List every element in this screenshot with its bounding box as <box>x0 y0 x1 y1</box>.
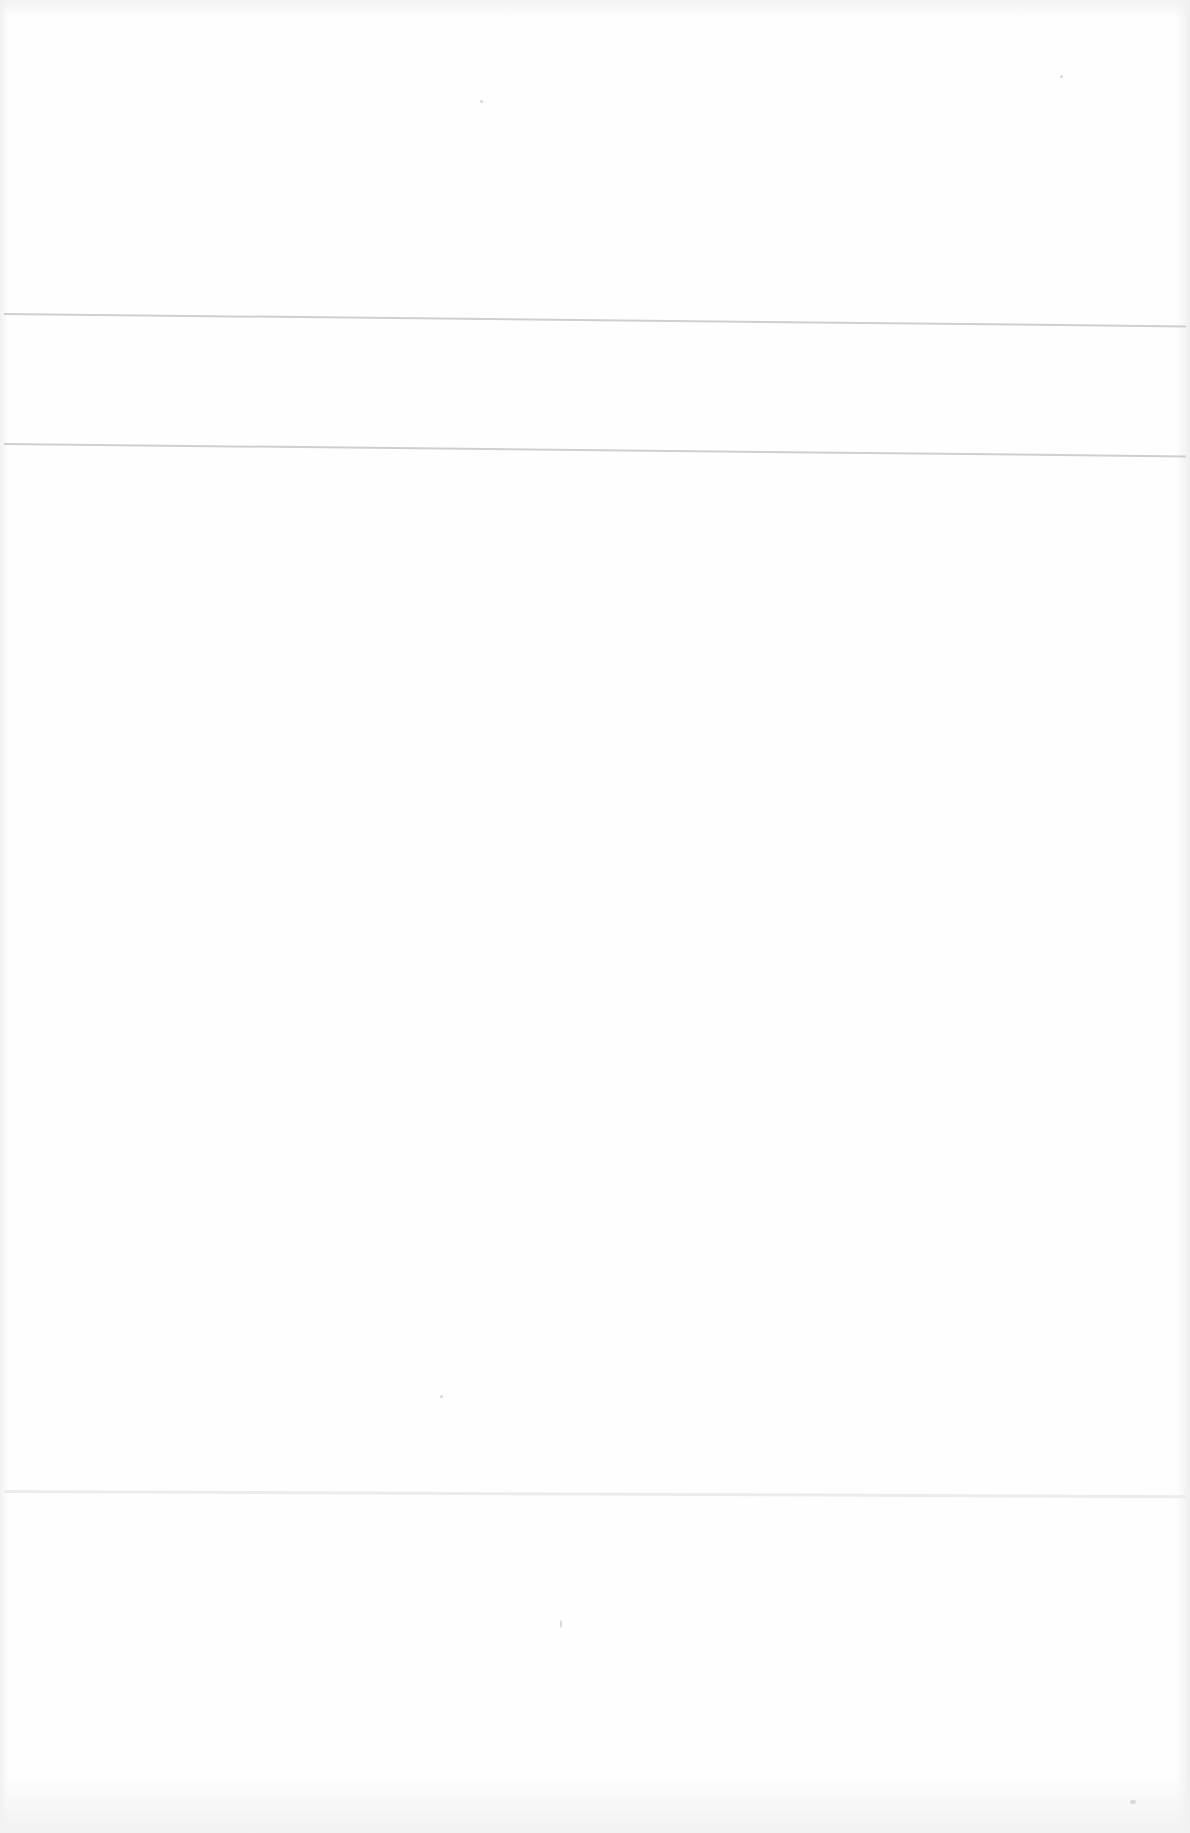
horizontal-rule-middle <box>4 443 1186 457</box>
scan-speck <box>1130 1800 1136 1804</box>
scan-edge-bottom <box>0 1773 1190 1833</box>
scan-edge-left <box>0 0 8 1833</box>
horizontal-rule-top <box>4 313 1186 327</box>
scan-speck <box>440 1395 443 1398</box>
scanned-page <box>0 0 1190 1833</box>
scan-speck <box>560 1620 562 1628</box>
scan-edge-top <box>0 0 1190 18</box>
horizontal-rule-bottom <box>4 1490 1186 1498</box>
scan-speck <box>1060 75 1063 78</box>
scan-speck <box>480 100 483 103</box>
scan-edge-right <box>1176 0 1190 1833</box>
